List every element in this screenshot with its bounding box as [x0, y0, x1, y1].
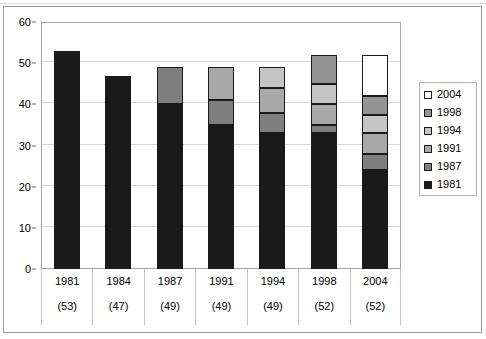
x-axis-category-label: 1984 [93, 275, 143, 287]
bar-segment[interactable] [259, 88, 285, 113]
legend-swatch-icon [424, 163, 432, 171]
legend-swatch-icon [424, 91, 432, 99]
bar-segment[interactable] [311, 104, 337, 125]
x-axis-label-cell: 1998(52) [298, 269, 349, 325]
x-axis-category-label: 1981 [42, 275, 92, 287]
x-axis-label-cell: 1991(49) [195, 269, 246, 325]
legend-swatch-icon [424, 127, 432, 135]
x-axis-count-label: (47) [93, 300, 143, 312]
y-axis-tick-mark [32, 63, 36, 64]
legend-item[interactable]: 1998 [424, 104, 476, 121]
y-axis-tick-label: 10 [19, 222, 31, 234]
bar-segment[interactable] [362, 115, 388, 134]
x-axis-count-label: (52) [351, 300, 400, 312]
x-axis-count-label: (49) [145, 300, 195, 312]
bar-segment[interactable] [362, 55, 388, 96]
x-axis-category-label: 1998 [299, 275, 349, 287]
x-axis-count-label: (52) [299, 300, 349, 312]
y-axis-tick-mark [32, 186, 36, 187]
legend-label: 1981 [437, 179, 461, 190]
bar-slot [41, 22, 92, 269]
bars-layer [41, 22, 401, 269]
bar-segment[interactable] [362, 154, 388, 170]
x-axis-label-cell: 1994(49) [247, 269, 298, 325]
legend-swatch-icon [424, 181, 432, 189]
x-axis-category-label: 1991 [196, 275, 246, 287]
y-axis-tick-mark [32, 104, 36, 105]
chart-root: 0102030405060 1981(53)1984(47)1987(49)19… [0, 0, 486, 339]
y-axis-tick-mark [32, 227, 36, 228]
bar-segment[interactable] [208, 125, 234, 269]
x-axis-category-label: 1987 [145, 275, 195, 287]
bar-segment[interactable] [311, 55, 337, 84]
y-axis: 0102030405060 [0, 22, 36, 269]
bar-slot [350, 22, 401, 269]
y-axis-tick-label: 30 [19, 140, 31, 152]
bar-slot [144, 22, 195, 269]
x-axis-category-label: 2004 [351, 275, 400, 287]
bar-segment[interactable] [208, 67, 234, 100]
bar-segment[interactable] [259, 67, 285, 88]
bar-segment[interactable] [362, 96, 388, 115]
legend-item[interactable]: 1991 [424, 140, 476, 157]
legend-label: 2004 [437, 89, 461, 100]
bar-segment[interactable] [105, 76, 131, 269]
legend-item[interactable]: 1994 [424, 122, 476, 139]
legend-label: 1998 [437, 107, 461, 118]
legend-item[interactable]: 1981 [424, 176, 476, 193]
bar-segment[interactable] [311, 84, 337, 105]
x-axis-count-label: (53) [42, 300, 92, 312]
bar-slot [195, 22, 246, 269]
y-axis-tick-label: 50 [19, 57, 31, 69]
legend-label: 1994 [437, 125, 461, 136]
x-axis-count-label: (49) [196, 300, 246, 312]
y-axis-tick-label: 20 [19, 181, 31, 193]
x-axis-label-cell: 1981(53) [41, 269, 92, 325]
bar-segment[interactable] [259, 133, 285, 269]
legend-label: 1991 [437, 143, 461, 154]
y-axis-tick-label: 0 [25, 263, 31, 275]
y-axis-tick-label: 60 [19, 16, 31, 28]
bar-segment[interactable] [157, 104, 183, 269]
bar-segment[interactable] [208, 100, 234, 125]
bar-segment[interactable] [259, 113, 285, 134]
bar-segment[interactable] [311, 125, 337, 133]
x-axis-label-cell: 1984(47) [92, 269, 143, 325]
y-axis-tick-mark [32, 145, 36, 146]
x-axis-label-cell: 2004(52) [350, 269, 401, 325]
bar-slot [298, 22, 349, 269]
bar-segment[interactable] [157, 67, 183, 104]
x-axis-label-cell: 1987(49) [144, 269, 195, 325]
legend-item[interactable]: 1987 [424, 158, 476, 175]
x-axis-category-label: 1994 [248, 275, 298, 287]
cropped-header-rule [0, 0, 486, 4]
y-axis-tick-label: 40 [19, 98, 31, 110]
x-axis-count-label: (49) [248, 300, 298, 312]
legend: 200419981994199119871981 [419, 82, 477, 196]
bar-slot [92, 22, 143, 269]
bar-segment[interactable] [362, 133, 388, 154]
legend-item[interactable]: 2004 [424, 86, 476, 103]
y-axis-tick-mark [32, 269, 36, 270]
bar-segment[interactable] [54, 51, 80, 269]
x-axis-label-table: 1981(53)1984(47)1987(49)1991(49)1994(49)… [41, 269, 401, 325]
bar-slot [247, 22, 298, 269]
legend-swatch-icon [424, 109, 432, 117]
y-axis-tick-mark [32, 22, 36, 23]
bar-segment[interactable] [311, 133, 337, 269]
legend-swatch-icon [424, 145, 432, 153]
legend-label: 1987 [437, 161, 461, 172]
bar-segment[interactable] [362, 170, 388, 269]
